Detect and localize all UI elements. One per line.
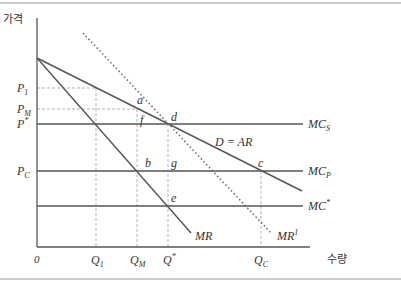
economics-diagram: 가격 수량 0 P1 PM P* PC Q1 QM Q* QC D = AR M… xyxy=(0,0,401,282)
mr1-label: MR1 xyxy=(276,228,298,243)
y-axis-label: 가격 xyxy=(3,13,23,26)
x-axis-label: 수량 xyxy=(327,253,347,266)
demand-label: D = AR xyxy=(214,135,253,149)
pc-label: PC xyxy=(16,164,30,180)
q1-label: Q1 xyxy=(91,253,104,269)
point-f-label: f xyxy=(140,113,145,127)
point-d-label: d xyxy=(171,110,178,124)
p1-label: P1 xyxy=(16,81,28,97)
q-star-label: Q* xyxy=(163,252,176,267)
point-g-label: g xyxy=(171,156,177,170)
point-c-label: c xyxy=(258,156,264,170)
qm-label: QM xyxy=(130,253,147,269)
mr-label: MR xyxy=(194,229,213,243)
origin-label: 0 xyxy=(34,253,40,265)
mr1-dotted-line xyxy=(83,33,271,233)
qc-label: QC xyxy=(254,253,269,269)
point-e-label: e xyxy=(171,191,177,205)
mc-p-label: MCP xyxy=(307,164,331,180)
point-a-label: a xyxy=(137,93,143,107)
mc-star-label: MC* xyxy=(307,198,330,213)
point-b-label: b xyxy=(145,156,151,170)
p-star-label: P* xyxy=(16,116,28,131)
mc-s-label: MCS xyxy=(307,117,330,133)
